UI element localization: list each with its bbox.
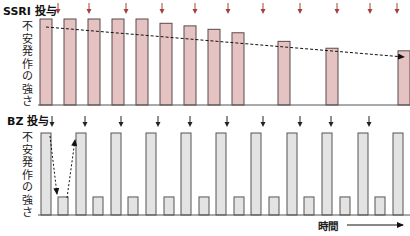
bz-bar	[111, 133, 121, 215]
bz-dose-arrow-icon	[298, 122, 303, 127]
ssri-bar	[40, 19, 52, 105]
bz-rebound-arrow	[67, 140, 75, 198]
time-axis-label: 時間	[318, 218, 338, 233]
bz-bar	[358, 133, 368, 215]
bz-bar	[393, 133, 403, 215]
ssri-bar	[208, 29, 220, 105]
bz-bar	[93, 197, 103, 215]
bz-bar	[128, 197, 138, 215]
ssri-bar	[88, 19, 100, 105]
ssri-dose-arrow-icon	[298, 9, 303, 14]
bz-dose-arrow-icon	[367, 122, 372, 127]
bz-bar	[164, 197, 174, 215]
bz-bar	[41, 133, 51, 215]
bz-bar	[287, 133, 297, 215]
bz-bar	[304, 197, 314, 215]
ssri-dose-arrow-icon	[160, 9, 165, 14]
bz-bar	[251, 133, 261, 215]
bz-bar	[269, 197, 279, 215]
bz-bar	[76, 133, 86, 215]
ssri-dose-arrow-icon	[87, 9, 92, 14]
bz-bar	[181, 133, 191, 215]
bz-bar	[340, 197, 350, 215]
ssri-dose-arrow-icon	[124, 9, 129, 14]
bz-dose-arrow-icon	[225, 122, 230, 127]
ssri-bar	[184, 26, 196, 105]
ssri-bar	[326, 48, 338, 105]
ssri-bar	[278, 41, 290, 105]
bz-dose-arrow-icon	[156, 122, 161, 127]
ssri-bar	[160, 23, 172, 105]
ssri-dose-arrow-icon	[261, 9, 266, 14]
ssri-dose-arrow-icon	[193, 9, 198, 14]
bz-dose-arrow-icon	[50, 122, 55, 127]
bz-bar	[216, 133, 226, 215]
bz-bar	[199, 197, 209, 215]
ssri-bar	[136, 19, 148, 105]
bz-dose-arrow-icon	[119, 122, 124, 127]
anxiety-comparison-diagram	[0, 0, 410, 236]
ssri-bar	[64, 19, 76, 105]
ssri-dose-arrow-icon	[56, 9, 61, 14]
bz-dose-arrow-icon	[329, 122, 334, 127]
ssri-dose-arrow-icon	[395, 9, 400, 14]
bz-bar	[322, 133, 332, 215]
bz-dose-arrow-icon	[261, 122, 266, 127]
bz-bar	[234, 197, 244, 215]
ssri-dose-arrow-icon	[226, 9, 231, 14]
bz-dose-arrow-icon	[83, 122, 88, 127]
ssri-dose-arrow-icon	[335, 9, 340, 14]
ssri-bar	[112, 19, 124, 105]
bz-dose-arrow-icon	[188, 122, 193, 127]
bz-bar	[375, 197, 385, 215]
ssri-bar	[398, 51, 410, 105]
ssri-dose-arrow-icon	[368, 9, 373, 14]
bz-bar	[146, 133, 156, 215]
bz-bar	[58, 197, 68, 215]
